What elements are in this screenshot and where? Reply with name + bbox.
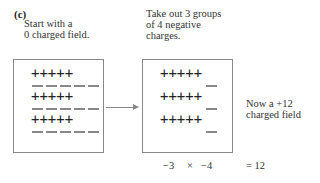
negative-charge xyxy=(88,108,99,110)
negative-charge xyxy=(46,131,57,133)
equation-operator: × xyxy=(187,160,193,171)
negative-charge xyxy=(206,131,217,133)
negative-charges-row xyxy=(206,131,217,133)
result-caption-line-1: Now a +12 xyxy=(246,98,293,109)
negative-charge xyxy=(32,85,43,87)
positive-charges-row: +++++ xyxy=(31,90,73,102)
negative-charge xyxy=(60,85,71,87)
negative-charge xyxy=(206,85,217,87)
negative-charge xyxy=(88,85,99,87)
arrow-icon-shaft xyxy=(106,107,134,108)
negative-charges-row xyxy=(32,108,99,110)
negative-charge xyxy=(74,85,85,87)
positive-charges-row: +++++ xyxy=(160,90,202,102)
left-caption-line-2: 0 charged field. xyxy=(24,29,89,40)
negative-charge xyxy=(88,131,99,133)
equation-right-operand: −4 xyxy=(201,160,212,171)
positive-charges-row: +++++ xyxy=(160,67,202,79)
negative-charge xyxy=(60,108,71,110)
positive-charged-field-box: +++++ +++++ +++++ xyxy=(142,59,233,153)
negative-charge xyxy=(74,131,85,133)
arrow-right-icon xyxy=(133,104,139,110)
positive-charges-row: +++++ xyxy=(31,113,73,125)
negative-charge xyxy=(46,108,57,110)
right-caption-line-1: Take out 3 groups xyxy=(146,8,221,19)
result-caption-line-2: charged field xyxy=(246,109,301,120)
negative-charges-row xyxy=(32,131,99,133)
equation-left-operand: −3 xyxy=(163,160,174,171)
negative-charge xyxy=(74,108,85,110)
zero-charged-field-box: +++++ +++++ +++++ xyxy=(13,59,104,153)
negative-charge xyxy=(32,131,43,133)
equation-result: = 12 xyxy=(246,160,265,171)
negative-charge xyxy=(32,108,43,110)
negative-charges-row xyxy=(32,85,99,87)
negative-charge xyxy=(46,85,57,87)
positive-charges-row: +++++ xyxy=(160,113,202,125)
negative-charge xyxy=(60,131,71,133)
negative-charge xyxy=(206,108,217,110)
left-caption-line-1: Start with a xyxy=(24,18,72,29)
negative-charges-row xyxy=(206,108,217,110)
right-caption-line-3: charges. xyxy=(146,30,181,41)
right-caption-line-2: of 4 negative xyxy=(146,19,201,30)
negative-charges-row xyxy=(206,85,217,87)
positive-charges-row: +++++ xyxy=(31,67,73,79)
